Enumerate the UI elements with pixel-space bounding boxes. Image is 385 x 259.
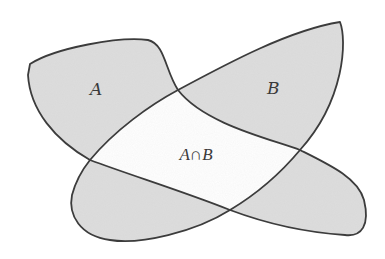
venn-diagram: A B A∩B	[0, 0, 385, 259]
label-intersection: A∩B	[178, 145, 213, 164]
label-set-a: A	[88, 79, 102, 99]
label-set-b: B	[266, 78, 280, 98]
